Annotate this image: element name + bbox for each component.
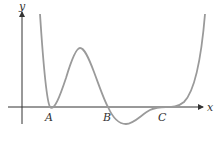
x-axis-label: x [207, 101, 214, 114]
point-label-c: C [158, 111, 167, 124]
function-graph: y x A B C [0, 0, 216, 141]
point-label-a: A [44, 111, 53, 124]
point-label-b: B [102, 111, 111, 124]
y-axis-label: y [18, 0, 26, 13]
